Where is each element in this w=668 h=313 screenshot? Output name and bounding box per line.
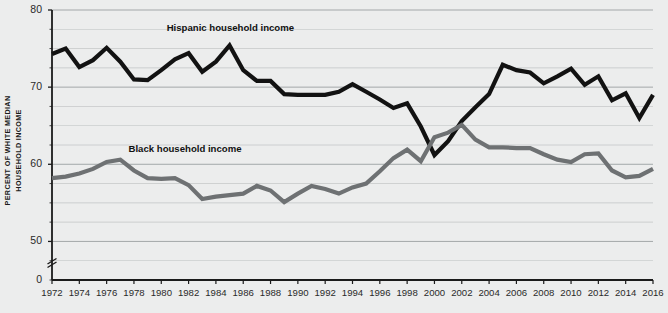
y-tick-label-50: 50: [16, 234, 42, 246]
series-label-black: Black household income: [129, 143, 242, 154]
y-tick-label-0: 0: [16, 273, 42, 285]
y-axis-title-line-1: PERCENT OF WHITE MEDIAN: [3, 96, 12, 206]
series-label-hispanic: Hispanic household income: [167, 22, 294, 33]
x-tick-label-2016: 2016: [635, 287, 668, 298]
y-tick-label-70: 70: [16, 80, 42, 92]
y-tick-label-80: 80: [16, 3, 42, 15]
y-tick-label-60: 60: [16, 157, 42, 169]
y-axis-title-line-2: HOUSEHOLD INCOME: [13, 109, 22, 191]
